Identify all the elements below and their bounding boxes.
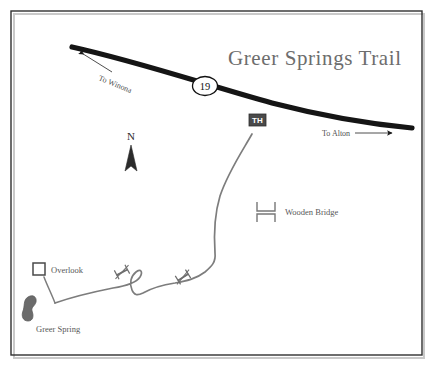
north-letter-label: N xyxy=(127,130,135,142)
greer-spring-label: Greer Spring xyxy=(36,324,81,334)
map-title: Greer Springs Trail xyxy=(228,46,402,70)
map-canvas: To Winona To Alton 19 TH Overlook xyxy=(0,0,434,373)
overlook-marker[interactable] xyxy=(33,263,45,275)
overlook-label: Overlook xyxy=(51,265,84,275)
trail-map-graphic: To Winona To Alton 19 TH Overlook xyxy=(0,0,434,373)
trailhead-label: TH xyxy=(252,116,263,125)
to-alton-label: To Alton xyxy=(322,129,350,138)
wooden-bridge-legend-label: Wooden Bridge xyxy=(285,207,339,217)
route-shield-number: 19 xyxy=(200,81,211,92)
